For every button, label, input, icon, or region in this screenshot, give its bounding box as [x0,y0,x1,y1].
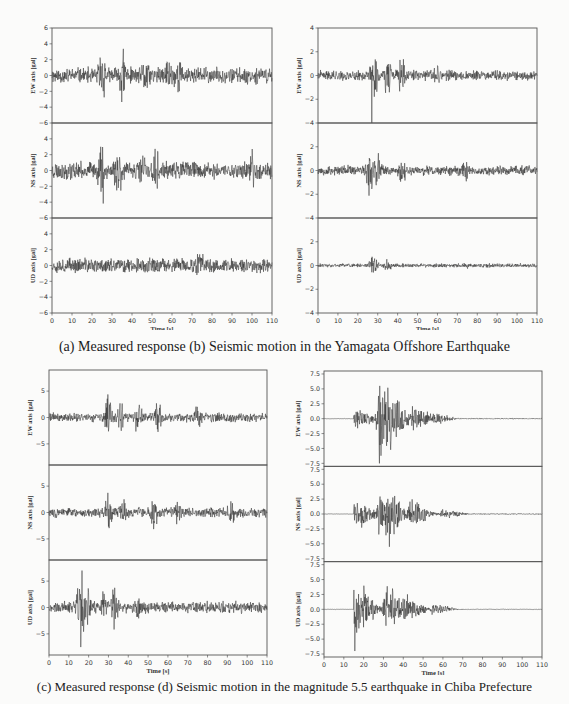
x-tick-label: 90 [493,317,501,324]
waveform-line [52,49,272,102]
subplot-ew: −6−4−20246EW axis [gal] [29,24,272,126]
x-tick-label: 0 [47,659,51,666]
x-tick-label: 30 [379,661,387,668]
y-tick-label: −2 [39,183,48,190]
x-axis-label: Time [s] [422,669,445,676]
x-tick-label: 100 [246,317,258,324]
x-tick-label: 90 [228,317,236,324]
x-tick-label: 40 [394,317,402,324]
figure-b-seismic-motion-yamagata: −4−2024EW axis [gal]−4−202NS axis [gal]−… [285,0,569,330]
x-tick-label: 110 [266,317,278,324]
y-axis-label: NS axis [gal] [294,497,302,531]
chart-c: −505EW axis [gal]−505NS axis [gal]−505UD… [0,360,285,675]
x-tick-label: 20 [360,661,368,668]
y-axis-label: UD axis [gal] [294,592,302,627]
x-tick-label: 10 [68,317,76,324]
x-tick-label: 40 [128,317,136,324]
y-tick-label: 0.0 [310,415,320,422]
chart-b: −4−2024EW axis [gal]−4−202NS axis [gal]−… [285,0,569,330]
y-tick-label: 0 [310,72,314,79]
y-tick-label: 2 [310,48,314,55]
x-tick-label: 20 [85,659,93,666]
y-tick-label: 4 [44,40,48,47]
caption-top: (a) Measured response (b) Seismic motion… [0,339,569,355]
y-tick-label: 2 [44,56,48,63]
subplot-ud: −4−202UD axis [gal] [295,218,537,316]
x-tick-label: 80 [208,317,216,324]
x-axis-label: Time [s] [151,325,174,331]
y-tick-label: −2 [305,285,314,292]
x-axis-label: Time [s] [147,667,170,675]
y-tick-label: 2.5 [310,495,320,502]
y-tick-label: 5.0 [310,480,320,487]
y-tick-label: −2 [39,88,48,95]
x-tick-label: 70 [453,317,461,324]
y-tick-label: 5.0 [310,576,320,583]
x-tick-label: 70 [188,317,196,324]
x-tick-label: 60 [168,317,176,324]
y-axis-label: NS axis [gal] [26,496,34,530]
x-tick-label: 40 [399,661,407,668]
y-tick-label: 2.5 [310,400,320,407]
y-tick-label: 0 [44,167,48,174]
y-tick-label: −6 [39,214,48,221]
subplot-ud: −7.5−5.0−2.50.02.55.07.5UD axis [gal] [294,561,542,657]
y-tick-label: −2.5 [305,430,320,437]
y-tick-label: 7.5 [310,370,320,377]
x-tick-label: 20 [354,317,362,324]
y-tick-label: −4 [39,103,48,110]
y-tick-label: −5.0 [305,540,320,547]
x-axis-label: Time [s] [416,325,439,331]
x-tick-label: 10 [334,317,342,324]
waveform-line [52,254,272,275]
y-tick-label: −5.0 [305,635,320,642]
y-axis-label: UD axis [gal] [295,248,303,283]
y-tick-label: 2 [44,151,48,158]
y-tick-label: −6 [39,119,48,126]
x-tick-label: 0 [316,317,320,324]
y-tick-label: −6 [39,309,48,316]
y-tick-label: 4 [44,230,48,237]
y-tick-label: −2.5 [305,620,320,627]
y-tick-label: 6 [44,24,48,31]
y-tick-label: 5 [41,482,45,489]
y-tick-label: −4 [305,214,314,221]
x-tick-label: 90 [498,661,506,668]
y-axis-label: NS axis [gal] [29,154,37,188]
x-tick-label: 10 [65,659,73,666]
x-tick-label: 60 [433,317,441,324]
subplot-ud: −505UD axis [gal] [26,560,267,655]
subplot-ns: −6−4−2024NS axis [gal] [29,123,272,221]
y-tick-label: −5.0 [305,445,320,452]
waveform-line [318,153,537,196]
y-tick-label: 0 [41,509,45,516]
x-tick-label: 100 [516,661,528,668]
y-tick-label: 7.5 [310,466,320,473]
x-tick-label: 50 [144,659,152,666]
chart-d: −7.5−5.0−2.50.02.55.07.5EW axis [gal]−7.… [285,360,569,675]
subplot-ns: −4−202NS axis [gal] [295,123,537,221]
waveform-line [49,493,267,529]
x-tick-label: 70 [459,661,467,668]
y-tick-label: 0 [44,262,48,269]
waveform-line [318,59,537,123]
x-tick-label: 50 [414,317,422,324]
x-tick-label: 100 [241,659,253,666]
y-tick-label: 5 [41,387,45,394]
y-tick-label: 2.5 [310,591,320,598]
x-tick-label: 40 [124,659,132,666]
y-tick-label: −4 [39,198,48,205]
subplot-ew: −7.5−5.0−2.50.02.55.07.5EW axis [gal] [294,370,542,466]
x-tick-label: 50 [419,661,427,668]
y-axis-label: NS axis [gal] [295,154,303,188]
x-tick-label: 50 [148,317,156,324]
y-tick-label: 2 [44,246,48,253]
figure-d-seismic-motion-chiba: −7.5−5.0−2.50.02.55.07.5EW axis [gal]−7.… [285,360,569,675]
y-tick-label: 0.0 [310,510,320,517]
y-tick-label: −2 [305,95,314,102]
figure-a-measured-response-yamagata: −6−4−20246EW axis [gal]−6−4−2024NS axis … [0,0,285,330]
x-tick-label: 30 [104,659,112,666]
chart-a: −6−4−20246EW axis [gal]−6−4−2024NS axis … [0,0,285,330]
y-tick-label: −2 [39,278,48,285]
y-tick-label: −2 [305,190,314,197]
